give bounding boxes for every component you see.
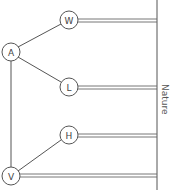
- double-line-v-nature: [20, 174, 157, 177]
- double-line-l-nature: [78, 86, 157, 89]
- node-a-label: A: [8, 48, 15, 58]
- node-a: A: [2, 43, 20, 61]
- game-tree-diagram: A W L H V Nature: [0, 0, 175, 190]
- nature-label: Nature: [160, 84, 170, 115]
- edge-a-w: [18, 24, 61, 47]
- node-h-label: H: [66, 131, 73, 141]
- node-v: V: [2, 167, 20, 185]
- node-w-label: W: [65, 16, 74, 26]
- node-v-label: V: [8, 172, 15, 182]
- node-l: L: [60, 78, 78, 96]
- node-h: H: [60, 126, 78, 144]
- edge-v-h: [18, 140, 61, 171]
- node-l-label: L: [66, 83, 71, 93]
- double-line-h-nature: [78, 134, 157, 137]
- double-line-w-nature: [78, 19, 157, 22]
- node-w: W: [60, 11, 78, 29]
- edge-a-l: [18, 57, 61, 82]
